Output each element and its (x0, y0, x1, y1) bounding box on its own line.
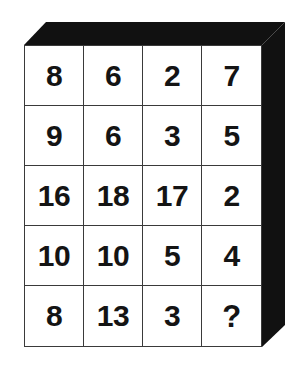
cell-value: 7 (223, 61, 239, 91)
cell-value: 16 (38, 181, 70, 211)
cell-value: 3 (164, 121, 180, 151)
table-cell-r3c4: 2 (202, 166, 261, 226)
cell-value: 2 (223, 181, 239, 211)
table-cell-r5c3: 3 (143, 286, 202, 346)
table-cell-r1c1: 8 (25, 46, 84, 106)
table-cell-r1c4: 7 (202, 46, 261, 106)
cell-value: 17 (156, 181, 188, 211)
cell-value: 18 (97, 181, 129, 211)
cell-value: 5 (223, 121, 239, 151)
table-cell-r4c4: 4 (202, 226, 261, 286)
table-cell-r4c3: 5 (143, 226, 202, 286)
cell-value: 4 (223, 241, 239, 271)
table-cell-r5c2: 13 (84, 286, 143, 346)
puzzle-stage: 8 6 2 7 9 6 3 5 16 18 17 (0, 0, 302, 373)
cell-value: 6 (105, 61, 121, 91)
table-cell-r5c4-unknown: ? (202, 286, 261, 346)
table-cell-r2c1: 9 (25, 106, 84, 166)
table-cell-r5c1: 8 (25, 286, 84, 346)
cell-value: 10 (97, 241, 129, 271)
cell-value: 9 (46, 121, 62, 151)
table-cell-r3c1: 16 (25, 166, 84, 226)
table-cell-r2c2: 6 (84, 106, 143, 166)
table-cell-r1c3: 2 (143, 46, 202, 106)
table-cell-r4c1: 10 (25, 226, 84, 286)
cell-value: 5 (164, 241, 180, 271)
cell-value: 2 (164, 61, 180, 91)
table-cell-r3c2: 18 (84, 166, 143, 226)
table-cell-r3c3: 17 (143, 166, 202, 226)
table-cell-r2c4: 5 (202, 106, 261, 166)
cell-value: 13 (97, 301, 129, 331)
cell-value: 10 (38, 241, 70, 271)
unknown-value: ? (222, 301, 240, 332)
table-cell-r1c2: 6 (84, 46, 143, 106)
table-cell-r4c2: 10 (84, 226, 143, 286)
cell-value: 3 (164, 301, 180, 331)
cell-value: 6 (105, 121, 121, 151)
number-grid: 8 6 2 7 9 6 3 5 16 18 17 (24, 45, 262, 347)
cell-value: 8 (46, 61, 62, 91)
table-cell-r2c3: 3 (143, 106, 202, 166)
cell-value: 8 (46, 301, 62, 331)
